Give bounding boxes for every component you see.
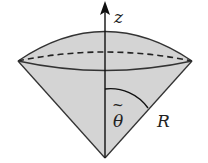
diagram-canvas: z ~ θ R [0,0,208,163]
theta-label: θ [113,111,123,131]
radius-label: R [156,111,170,131]
spherical-cone-diagram: z ~ θ R [0,0,208,163]
z-axis-label: z [113,7,124,27]
